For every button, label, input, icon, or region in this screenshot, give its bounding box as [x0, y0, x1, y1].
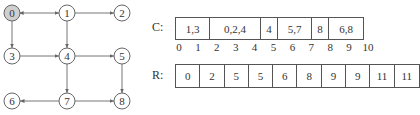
c-array-index: 1	[195, 41, 201, 53]
node-label: 7	[64, 95, 70, 107]
c-array-index: 2	[214, 41, 220, 53]
r-array-cell: 6	[273, 65, 297, 87]
c-array-index: 5	[271, 41, 277, 53]
c-array-index: 9	[346, 41, 352, 53]
c-array-index: 7	[309, 41, 315, 53]
c-array-cell: 4	[261, 18, 278, 39]
node-label: 8	[119, 95, 125, 107]
c-array: 1,30,2,445,786,8	[175, 17, 364, 40]
c-array-cell: 5,7	[278, 18, 312, 39]
node-label: 5	[119, 50, 125, 62]
r-array-cell: 5	[249, 65, 273, 87]
r-array-cell: 0	[176, 65, 200, 87]
node-label: 6	[9, 95, 15, 107]
r-array-cell: 2	[200, 65, 224, 87]
c-array-index: 0	[176, 41, 182, 53]
r-array-cell: 11	[395, 65, 419, 87]
node-label: 4	[64, 50, 70, 62]
c-array-cell: 1,3	[176, 18, 210, 39]
r-array-label: R:	[152, 68, 163, 83]
node-label: 0	[9, 7, 15, 19]
c-array-cell: 8	[312, 18, 329, 39]
node-label: 3	[9, 50, 15, 62]
r-array-cell: 9	[322, 65, 346, 87]
c-array-index: 8	[327, 41, 333, 53]
r-array-cell: 5	[225, 65, 249, 87]
c-array-label: C:	[152, 20, 163, 35]
c-array-index: 10	[363, 41, 374, 53]
node-label: 2	[119, 7, 125, 19]
c-array-index: 4	[252, 41, 258, 53]
directed-graph: 012345678	[0, 0, 140, 115]
c-array-index: 3	[233, 41, 239, 53]
c-array-index: 6	[290, 41, 296, 53]
r-array-cell: 11	[370, 65, 394, 87]
c-array-cell: 6,8	[329, 18, 363, 39]
r-array-cell: 9	[346, 65, 370, 87]
node-label: 1	[64, 7, 70, 19]
c-array-cell: 0,2,4	[210, 18, 261, 39]
r-array: 025568991111	[175, 64, 420, 88]
r-array-cell: 8	[297, 65, 321, 87]
